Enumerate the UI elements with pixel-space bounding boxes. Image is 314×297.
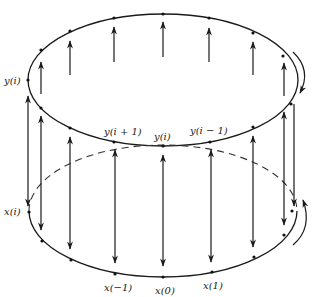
- lower-ring-nodes: [27, 209, 293, 278]
- upper-ring-nodes: [26, 12, 292, 147]
- label-x-0: x(0): [155, 285, 175, 296]
- label-x-1: x(1): [203, 280, 223, 291]
- connecting-arrows: [28, 96, 294, 266]
- rotation-arrow-top-icon: [293, 52, 305, 93]
- label-x-i-left: x(i): [4, 206, 21, 217]
- label-y-i-left: y(i): [3, 75, 21, 86]
- cylinder-diagram: y(i) y(i + 1) y(i) y(i − 1) x(i) x(−1) x…: [0, 0, 314, 297]
- label-y-i-plus-1: y(i + 1): [103, 126, 142, 137]
- label-y-i-minus-1: y(i − 1): [189, 125, 228, 136]
- label-y-i-center: y(i): [153, 131, 171, 142]
- upper-arrows: [41, 22, 284, 96]
- label-x-minus-1: x(−1): [104, 282, 132, 293]
